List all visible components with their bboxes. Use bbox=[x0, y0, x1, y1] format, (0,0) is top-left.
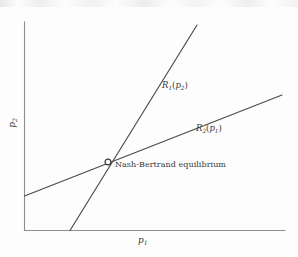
y-axis-label-subscript: 2 bbox=[11, 118, 18, 122]
curve-r2 bbox=[25, 95, 283, 196]
curve-label-r1: R1(p2) bbox=[162, 81, 188, 91]
y-axis-label: p2 bbox=[8, 118, 18, 128]
plot-canvas bbox=[0, 0, 298, 257]
figure-container: R1(p2) R2(p1) Nash-Bertrand equilibrium … bbox=[0, 0, 298, 257]
curve-label-r2: R2(p1) bbox=[196, 124, 222, 134]
x-axis-label-subscript: 1 bbox=[144, 239, 148, 246]
equilibrium-point-marker bbox=[105, 159, 111, 165]
curve-label-r2-paren-close: ) bbox=[219, 123, 222, 133]
curve-r1 bbox=[70, 25, 197, 231]
x-axis-label: p1 bbox=[138, 236, 148, 246]
curve-label-r1-paren-close: ) bbox=[185, 80, 188, 90]
equilibrium-annotation-label: Nash-Bertrand equilibrium bbox=[115, 161, 226, 169]
y-axis-label-base: p bbox=[7, 122, 17, 128]
